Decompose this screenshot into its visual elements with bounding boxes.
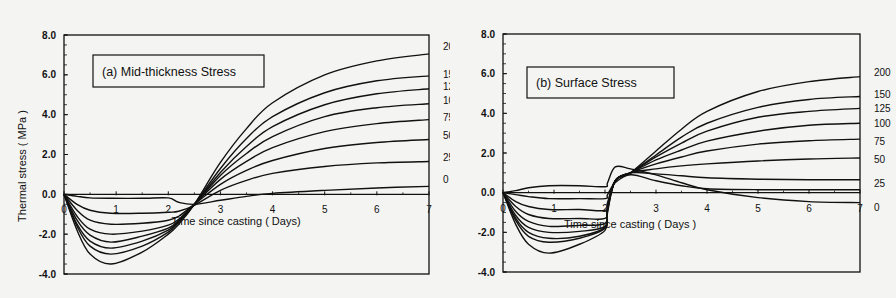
x-tick-label: 5 [322,204,328,215]
x-tick-label: 5 [755,203,761,214]
series-label: 0 [874,202,880,213]
y-tick-label: -4.0 [39,269,57,280]
x-axis-label: Time since casting ( Days ) [564,218,696,230]
series-line-extra [503,175,860,199]
series-line-0 [503,166,860,203]
chart-b: 8.06.04.02.00.0-2.0-4.001234567Time sinc… [450,0,896,298]
chart-b-plot: 8.06.04.02.00.0-2.0-4.001234567Time sinc… [450,0,896,298]
series-line-0 [64,186,429,204]
series-line-150 [64,76,429,254]
series-label: 100 [874,118,891,129]
series-label: 200 [443,41,450,52]
x-tick-label: 0 [61,204,67,215]
y-tick-label: 8.0 [42,30,56,41]
y-tick-label: 0.0 [481,187,495,198]
x-tick-label: 1 [551,203,557,214]
x-tick-label: 4 [270,204,276,215]
y-tick-label: 4.0 [481,108,495,119]
series-label: 50 [443,130,450,141]
y-tick-label: 6.0 [42,69,56,80]
y-tick-label: 0.0 [42,189,56,200]
x-tick-label: 4 [704,203,710,214]
x-tick-label: 3 [653,203,659,214]
series-label: 100 [443,95,450,106]
series-label: 25 [874,178,886,189]
y-tick-label: 8.0 [481,29,495,40]
series-label: 150 [443,69,450,80]
series-label: 75 [443,112,450,123]
x-tick-label: 7 [426,204,432,215]
series-label: 200 [874,67,891,78]
x-tick-label: 2 [166,204,172,215]
chart-a: 8.06.04.02.00.0-2.0-4.001234567Time sinc… [0,0,450,298]
y-tick-label: 2.0 [481,148,495,159]
chart-title: (a) Mid-thickness Stress [102,65,236,79]
y-tick-label: 4.0 [42,109,56,120]
x-tick-label: 3 [218,204,224,215]
y-tick-label: -2.0 [478,227,496,238]
y-axis-label-a: Thermal stress ( MPa ) [16,96,28,236]
y-tick-label: -4.0 [478,267,496,278]
series-label: 25 [443,152,450,163]
x-tick-label: 0 [500,203,506,214]
series-label: 75 [874,136,886,147]
series-line-100 [503,123,860,232]
y-tick-label: -2.0 [39,229,57,240]
x-axis-label: Time since casting ( Days) [171,215,300,227]
x-tick-label: 6 [374,204,380,215]
series-label: 50 [874,154,886,165]
x-tick-label: 7 [857,203,863,214]
series-label: 125 [874,103,891,114]
chart-title: (b) Surface Stress [536,76,637,90]
chart-a-plot: 8.06.04.02.00.0-2.0-4.001234567Time sinc… [0,0,450,298]
y-tick-label: 6.0 [481,68,495,79]
x-tick-label: 6 [806,203,812,214]
series-label: 0 [443,174,449,185]
series-label: 125 [443,81,450,92]
y-tick-label: 2.0 [42,149,56,160]
series-label: 150 [874,89,891,100]
